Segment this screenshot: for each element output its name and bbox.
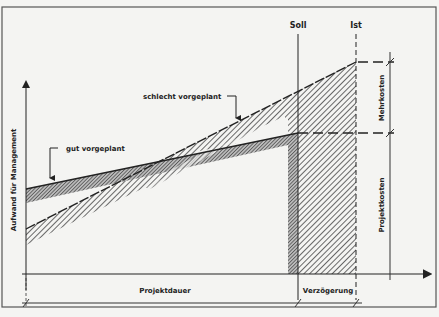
band-schlecht-overlay: [140, 128, 260, 189]
y-axis-label: Aufwand für Management: [10, 128, 18, 231]
ist-label: Ist: [350, 21, 362, 30]
band-gut-vorgeplant: [26, 133, 298, 274]
callout-schlecht-leader: [227, 96, 236, 118]
management-effort-diagram: Soll Ist Mehrkosten Projektkosten Aufwan…: [0, 0, 439, 317]
callout-gut-leader: [50, 148, 58, 178]
projektdauer-label: Projektdauer: [139, 287, 191, 295]
mehrkosten-label: Mehrkosten: [378, 75, 386, 122]
projektkosten-label: Projektkosten: [378, 177, 386, 232]
soll-label: Soll: [290, 21, 307, 30]
verzoegerung-label: Verzögerung: [303, 287, 353, 295]
callout-gut-label: gut vorgeplant: [66, 145, 125, 153]
callout-schlecht-label: schlecht vorgeplant: [143, 93, 222, 101]
